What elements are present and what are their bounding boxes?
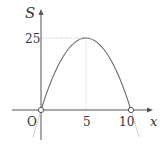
x-axis-arrow-icon xyxy=(147,108,153,113)
open-point-origin xyxy=(38,107,43,112)
y-tick-25: 25 xyxy=(25,32,40,46)
y-axis-arrow-icon xyxy=(39,9,44,15)
y-axis-label: S xyxy=(25,4,35,22)
x-axis-label: x xyxy=(150,114,158,129)
x-tick-5: 5 xyxy=(83,115,91,129)
x-tick-10: 10 xyxy=(119,115,134,129)
open-point-x10 xyxy=(128,107,133,112)
parabola-chart: S 25 O 5 10 x xyxy=(0,0,166,155)
origin-label: O xyxy=(27,115,37,129)
